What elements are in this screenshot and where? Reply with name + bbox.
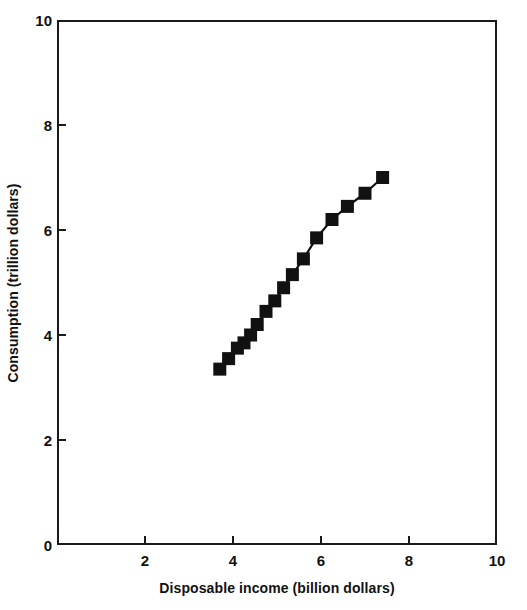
x-axis-title: Disposable income (billion dollars) bbox=[57, 580, 497, 596]
x-axis-tick-labels: 246810 bbox=[0, 553, 527, 575]
x-tick-label: 10 bbox=[477, 553, 517, 568]
plot-area-frame bbox=[57, 20, 497, 545]
y-axis-title: Consumption (trillion dollars) bbox=[4, 183, 20, 382]
x-tick-label: 6 bbox=[301, 553, 341, 568]
chart-figure: 0246810 246810 Disposable income (billio… bbox=[0, 0, 527, 610]
x-tick-label: 4 bbox=[213, 553, 253, 568]
x-tick-label: 8 bbox=[389, 553, 429, 568]
x-tick-label: 2 bbox=[125, 553, 165, 568]
y-axis-title-container: Consumption (trillion dollars) bbox=[0, 20, 24, 545]
